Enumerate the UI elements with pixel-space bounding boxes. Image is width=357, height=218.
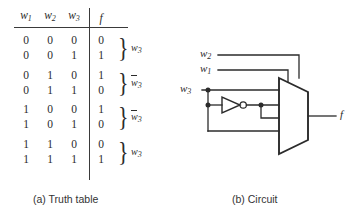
junction-dot	[206, 88, 211, 93]
cell-f: 0	[86, 117, 116, 132]
group-annotation: } w3	[118, 31, 164, 66]
circuit-panel: w2 w1 w3 f	[160, 0, 357, 218]
junction-dot	[259, 103, 264, 108]
cell-w3: 0	[62, 68, 86, 83]
header-w2: w2	[38, 8, 62, 26]
cell-w1: 1	[14, 102, 38, 117]
cell-w3: 1	[62, 117, 86, 132]
cell-f: 0	[86, 137, 116, 152]
header-w1: w1	[14, 8, 38, 26]
wire-select-w2	[218, 55, 299, 78]
overbar: w	[131, 77, 138, 88]
group-annotations: } w3 } w3 } w3 } w3	[118, 31, 164, 169]
cell-w3: 1	[62, 83, 86, 98]
overbar: w	[131, 111, 138, 122]
mux-body	[279, 78, 308, 154]
brace-glyph: }	[118, 35, 127, 63]
group-annotation: } w3	[118, 100, 164, 135]
truth-table-header-row: w1 w2 w3 f	[14, 8, 146, 26]
group-annotation: } w3	[118, 66, 164, 101]
group-label: w3	[131, 111, 142, 124]
cell-w1: 0	[14, 33, 38, 48]
cell-w1: 0	[14, 48, 38, 63]
cell-f: 1	[86, 152, 116, 167]
inverter-triangle	[222, 97, 240, 113]
group-annotation: } w3	[118, 135, 164, 170]
cell-w3: 0	[62, 33, 86, 48]
truth-table-grid: w1 w2 w3 f 0 0 0 0 0 0 1 1	[14, 8, 146, 167]
label-input-w3: w3	[180, 82, 191, 96]
label-output-f: f	[340, 108, 343, 120]
cell-w2: 0	[38, 117, 62, 132]
cell-w2: 0	[38, 48, 62, 63]
wire-inv-to-in2	[261, 105, 279, 118]
cell-w3: 1	[62, 152, 86, 167]
cell-f: 0	[86, 33, 116, 48]
cell-w2: 1	[38, 68, 62, 83]
wire-select-w1	[218, 70, 288, 82]
cell-w3: 1	[62, 48, 86, 63]
cell-w2: 1	[38, 137, 62, 152]
cell-w3: 0	[62, 102, 86, 117]
cell-f: 1	[86, 48, 116, 63]
brace-glyph: }	[118, 69, 127, 97]
cell-w2: 0	[38, 33, 62, 48]
cell-f: 1	[86, 68, 116, 83]
caption-circuit: (b) Circuit	[232, 193, 278, 205]
brace-glyph: }	[118, 104, 127, 132]
cell-f: 0	[86, 83, 116, 98]
truth-table-panel: w1 w2 w3 f 0 0 0 0 0 0 1 1	[0, 0, 160, 218]
cell-w3: 0	[62, 137, 86, 152]
label-select-w2: w2	[200, 47, 211, 61]
cell-w1: 1	[14, 152, 38, 167]
cell-w2: 1	[38, 83, 62, 98]
truth-table: w1 w2 w3 f 0 0 0 0 0 0 1 1	[14, 8, 146, 167]
cell-f: 1	[86, 102, 116, 117]
cell-w2: 0	[38, 102, 62, 117]
junction-dot	[206, 103, 211, 108]
cell-w1: 0	[14, 83, 38, 98]
caption-truth-table: (a) Truth table	[33, 193, 98, 205]
cell-w1: 0	[14, 68, 38, 83]
group-label: w3	[131, 42, 142, 55]
cell-w1: 1	[14, 117, 38, 132]
label-select-w1: w1	[200, 62, 211, 76]
group-label: w3	[131, 77, 142, 90]
brace-glyph: }	[118, 138, 127, 166]
header-f: f	[86, 11, 116, 26]
cell-w1: 1	[14, 137, 38, 152]
cell-w2: 1	[38, 152, 62, 167]
header-w3: w3	[62, 8, 86, 26]
group-label: w3	[131, 146, 142, 159]
